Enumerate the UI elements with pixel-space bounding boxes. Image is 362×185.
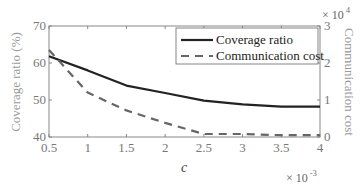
x-tick-label: 3.5 bbox=[273, 140, 289, 155]
y-axis-right-label: Communication cost bbox=[342, 28, 357, 136]
y-axis-left-label: Coverage ratio (%) bbox=[8, 32, 23, 132]
legend-label-coverage: Coverage ratio bbox=[216, 32, 293, 47]
y-right-tick-label: 2 bbox=[324, 55, 331, 70]
x-tick-label: 2.5 bbox=[196, 140, 212, 155]
x-tick-label: 1 bbox=[84, 140, 91, 155]
x-multiplier-exponent: -3 bbox=[310, 169, 317, 178]
x-multiplier: × 10 -3 bbox=[286, 169, 317, 185]
y-right-tick-label: 0 bbox=[324, 129, 331, 144]
y-left-tick-label: 50 bbox=[33, 92, 46, 107]
x-tick-label: 3 bbox=[239, 140, 246, 155]
dual-axis-line-chart: 0.511.522.533.54 40506070 0123 Coverage … bbox=[0, 0, 362, 185]
x-axis-label: c bbox=[181, 160, 188, 175]
x-tick-label: 4 bbox=[317, 140, 324, 155]
y-left-tick-label: 70 bbox=[33, 18, 46, 33]
y-left-tick-label: 40 bbox=[33, 129, 46, 144]
x-tick-label: 2 bbox=[162, 140, 169, 155]
y-right-multiplier-base: × 10 bbox=[322, 8, 344, 22]
y-right-tick-label: 1 bbox=[324, 92, 331, 107]
legend-label-cost: Communication cost bbox=[216, 48, 324, 63]
x-tick-label: 1.5 bbox=[118, 140, 134, 155]
y-right-multiplier: × 10 4 bbox=[322, 6, 350, 22]
y-right-multiplier-exponent: 4 bbox=[346, 6, 350, 15]
y-left-tick-label: 60 bbox=[33, 55, 46, 70]
legend: Coverage ratio Communication cost bbox=[176, 28, 324, 64]
x-multiplier-base: × 10 bbox=[286, 171, 308, 185]
